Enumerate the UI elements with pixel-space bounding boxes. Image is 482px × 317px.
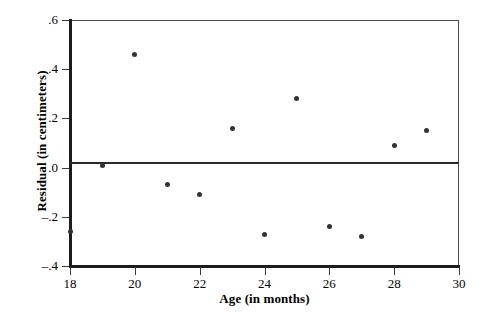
x-tick-label: 22 — [180, 276, 220, 292]
x-tick-label: 18 — [50, 276, 90, 292]
y-tick-mark — [62, 20, 69, 21]
data-point — [262, 232, 267, 237]
x-tick-mark — [394, 267, 395, 275]
y-tick-label: .4 — [14, 61, 58, 77]
data-point — [392, 143, 397, 148]
x-tick-label: 24 — [245, 276, 285, 292]
y-tick-label: .2 — [14, 110, 58, 126]
x-tick-label: 26 — [309, 276, 349, 292]
y-tick-mark — [62, 168, 69, 169]
y-tick-mark — [62, 118, 69, 119]
x-axis-title: Age (in months) — [70, 291, 459, 307]
x-tick-mark — [70, 267, 71, 275]
x-tick-mark — [329, 267, 330, 275]
data-point — [230, 126, 235, 131]
y-tick-label: .0 — [14, 160, 58, 176]
y-tick-label: .6 — [14, 12, 58, 28]
data-point — [100, 163, 105, 168]
data-point — [68, 229, 73, 234]
y-axis-title: Residual (in centimeters) — [34, 21, 50, 261]
zero-reference-line — [70, 162, 459, 164]
y-tick-mark — [62, 266, 69, 267]
y-tick-mark — [62, 217, 69, 218]
residual-scatter-plot: Residual (in centimeters) Age (in months… — [0, 0, 482, 317]
plot-area-frame — [70, 20, 459, 266]
y-tick-mark — [62, 69, 69, 70]
x-tick-mark — [135, 267, 136, 275]
y-tick-label: –.4 — [14, 258, 58, 274]
x-tick-label: 28 — [374, 276, 414, 292]
y-tick-label: –.2 — [14, 209, 58, 225]
x-tick-mark — [200, 267, 201, 275]
x-tick-mark — [265, 267, 266, 275]
x-tick-label: 20 — [115, 276, 155, 292]
x-tick-label: 30 — [439, 276, 479, 292]
x-tick-mark — [459, 267, 460, 275]
data-point — [327, 224, 332, 229]
